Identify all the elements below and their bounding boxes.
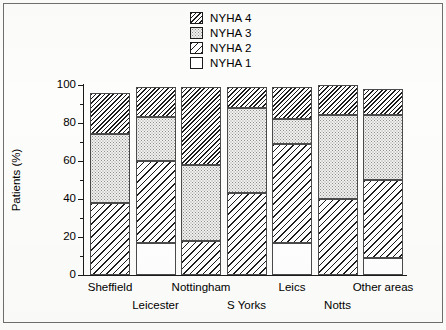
legend-label-nyha-3: NYHA 3 (210, 27, 252, 39)
bar-segment-nyha-2 (136, 161, 176, 243)
bar-segment-nyha-4 (318, 85, 358, 115)
bar-segment-nyha-4 (363, 89, 403, 116)
bar-segment-nyha-3 (272, 119, 312, 144)
bar-s-yorks[interactable] (227, 85, 267, 275)
bar-segment-nyha-1 (136, 243, 176, 275)
x-tick-label-leics: Leics (279, 282, 306, 294)
y-tick-label: 0 (70, 269, 76, 281)
y-tick-label: 40 (63, 193, 76, 205)
bar-leics[interactable] (272, 85, 312, 275)
bar-segment-nyha-3 (90, 134, 130, 202)
bar-segment-nyha-2 (272, 144, 312, 243)
bar-segment-nyha-3 (136, 117, 176, 161)
bar-segment-nyha-1 (363, 258, 403, 275)
bar-sheffield[interactable] (90, 85, 130, 275)
chart-legend: NYHA 4 NYHA 3 NYHA 2 NYHA 1 (190, 10, 310, 70)
y-tick-minor (80, 218, 84, 219)
legend-swatch-nyha-1-icon (190, 57, 203, 69)
legend-swatch-nyha-2-icon (190, 42, 203, 54)
legend-item-nyha-3: NYHA 3 (190, 25, 310, 40)
bar-segment-nyha-1 (272, 243, 312, 275)
y-tick-major (78, 85, 84, 86)
x-axis-line (83, 275, 407, 276)
y-tick-label: 80 (63, 117, 76, 129)
bar-segment-nyha-2 (227, 193, 267, 275)
bar-segment-nyha-3 (318, 115, 358, 199)
x-tick-label-notts: Notts (324, 300, 351, 312)
bar-segment-nyha-3 (181, 165, 221, 241)
legend-swatch-nyha-4-icon (190, 12, 203, 24)
legend-label-nyha-4: NYHA 4 (210, 12, 252, 24)
bar-segment-nyha-4 (227, 87, 267, 108)
bar-segment-nyha-3 (363, 115, 403, 180)
y-tick-major (78, 123, 84, 124)
y-tick-label: 100 (57, 79, 76, 91)
legend-label-nyha-1: NYHA 1 (210, 57, 252, 69)
bar-segment-nyha-4 (90, 93, 130, 135)
bar-segment-nyha-2 (181, 241, 221, 275)
bar-segment-nyha-4 (181, 87, 221, 165)
y-tick-label: 60 (63, 155, 76, 167)
plot-area: 020406080100 (84, 85, 406, 275)
y-tick-major (78, 199, 84, 200)
x-tick-label-other-areas: Other areas (353, 282, 414, 294)
bar-segment-nyha-2 (318, 199, 358, 275)
legend-label-nyha-2: NYHA 2 (210, 42, 252, 54)
x-tick-label-sheffield: Sheffield (88, 282, 133, 294)
legend-item-nyha-2: NYHA 2 (190, 40, 310, 55)
y-tick-minor (80, 104, 84, 105)
y-tick-minor (80, 180, 84, 181)
legend-item-nyha-4: NYHA 4 (190, 10, 310, 25)
y-tick-major (78, 237, 84, 238)
y-tick-minor (80, 256, 84, 257)
y-tick-major (78, 161, 84, 162)
bar-segment-nyha-4 (272, 87, 312, 119)
x-tick-label-s-yorks: S Yorks (227, 300, 266, 312)
bar-segment-nyha-4 (136, 87, 176, 117)
y-tick-minor (80, 142, 84, 143)
legend-item-nyha-1: NYHA 1 (190, 55, 310, 70)
x-tick-label-nottingham: Nottingham (172, 282, 231, 294)
y-axis-title: Patients (%) (10, 149, 22, 212)
y-tick-label: 20 (63, 231, 76, 243)
bar-segment-nyha-2 (363, 180, 403, 258)
bar-other-areas[interactable] (363, 85, 403, 275)
bar-notts[interactable] (318, 85, 358, 275)
bar-nottingham[interactable] (181, 85, 221, 275)
y-tick-major (78, 275, 84, 276)
legend-swatch-nyha-3-icon (190, 27, 203, 39)
bar-segment-nyha-2 (90, 203, 130, 275)
x-tick-label-leicester: Leicester (132, 300, 179, 312)
bar-segment-nyha-3 (227, 108, 267, 194)
bar-leicester[interactable] (136, 85, 176, 275)
figure-container: NYHA 4 NYHA 3 NYHA 2 NYHA 1 Patients (%)… (0, 0, 446, 330)
